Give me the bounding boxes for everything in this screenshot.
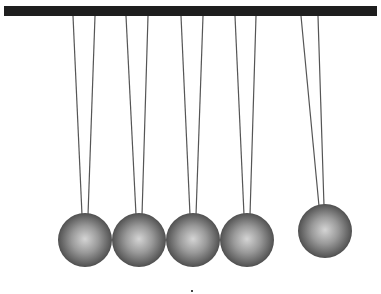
support-bar [4, 6, 377, 16]
ball-2 [112, 213, 166, 267]
string [181, 16, 190, 215]
ball-4 [220, 213, 274, 267]
cursor-dot [191, 290, 193, 292]
string [142, 16, 148, 215]
balls [58, 204, 352, 267]
string [235, 16, 244, 215]
ball-3 [166, 213, 220, 267]
newtons-cradle-illustration [0, 0, 381, 294]
ball-5 [298, 204, 352, 258]
string [88, 16, 95, 215]
string [126, 16, 136, 215]
strings [73, 16, 324, 215]
string [318, 16, 324, 206]
string [73, 16, 82, 215]
string [301, 16, 319, 206]
ball-1 [58, 213, 112, 267]
string [250, 16, 256, 215]
string [196, 16, 203, 215]
